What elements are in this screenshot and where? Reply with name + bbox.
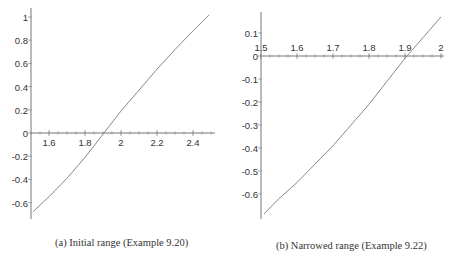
x-tick-label: 1.8	[78, 137, 91, 148]
x-tick-label: 2	[438, 42, 443, 53]
x-tick-label: 2	[118, 137, 123, 148]
x-tick-label: 1.9	[398, 42, 411, 53]
y-tick-label: -0.3	[242, 120, 258, 131]
caption-a: (a) Initial range (Example 9.20)	[55, 237, 188, 248]
y-tick-label: -0.2	[242, 97, 258, 108]
y-tick-label: 0.1	[245, 28, 258, 39]
y-tick-label: -0.6	[12, 198, 28, 209]
x-tick-label: 2.4	[186, 137, 199, 148]
x-tick-label: 1.6	[42, 137, 55, 148]
x-tick-label: 1.8	[362, 42, 375, 53]
y-tick-label: -0.6	[242, 189, 258, 200]
y-tick-label: 0	[253, 51, 258, 62]
y-tick-label: -0.4	[12, 174, 28, 185]
chart-initial-range: 1.61.822.22.410.80.60.40.20-0.2-0.4-0.6	[12, 8, 215, 219]
y-tick-label: -0.1	[242, 74, 258, 85]
figure-svg: 1.61.822.22.410.80.60.40.20-0.2-0.4-0.6 …	[0, 0, 450, 261]
x-tick-label: 2.2	[150, 137, 163, 148]
y-tick-label: 0.2	[15, 105, 28, 116]
function-curve	[33, 15, 209, 212]
chart-narrowed-range: 1.51.61.71.81.920.10-0.1-0.2-0.3-0.4-0.5…	[242, 12, 444, 219]
x-tick-label: 1.7	[326, 42, 339, 53]
y-tick-label: -0.5	[242, 166, 258, 177]
y-tick-label: -0.2	[12, 151, 28, 162]
y-tick-label: 0.6	[15, 58, 28, 69]
y-tick-label: 1	[23, 12, 28, 23]
y-tick-label: 0	[23, 128, 28, 139]
y-tick-label: -0.4	[242, 143, 258, 154]
y-tick-label: 0.4	[15, 82, 28, 93]
caption-b: (b) Narrowed range (Example 9.22)	[276, 240, 427, 251]
x-tick-label: 1.6	[290, 42, 303, 53]
y-tick-label: 0.8	[15, 35, 28, 46]
